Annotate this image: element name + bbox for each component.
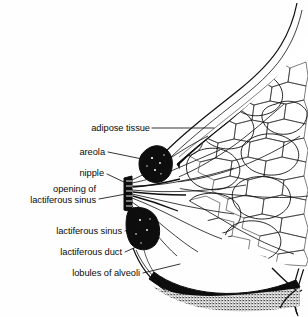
label-text-lactiferous-sinus: lactiferous sinus [56, 226, 122, 236]
label-text-lactiferous-duct: lactiferous duct [60, 247, 122, 257]
label-text-nipple: nipple [79, 168, 104, 178]
label-text-lobules-of-alveoli: lobules of alveoli [72, 268, 140, 278]
label-text-adipose-tissue: adipose tissue [91, 123, 150, 133]
label-text-opening-of-lactiferous-sinus-line1: opening of [53, 184, 96, 194]
breast-anatomy-diagram: adipose tissue areola nipple opening of … [0, 0, 308, 317]
label-text-opening-of-lactiferous-sinus-line2: lactiferous sinus [30, 195, 96, 205]
label-text-areola: areola [79, 147, 105, 157]
